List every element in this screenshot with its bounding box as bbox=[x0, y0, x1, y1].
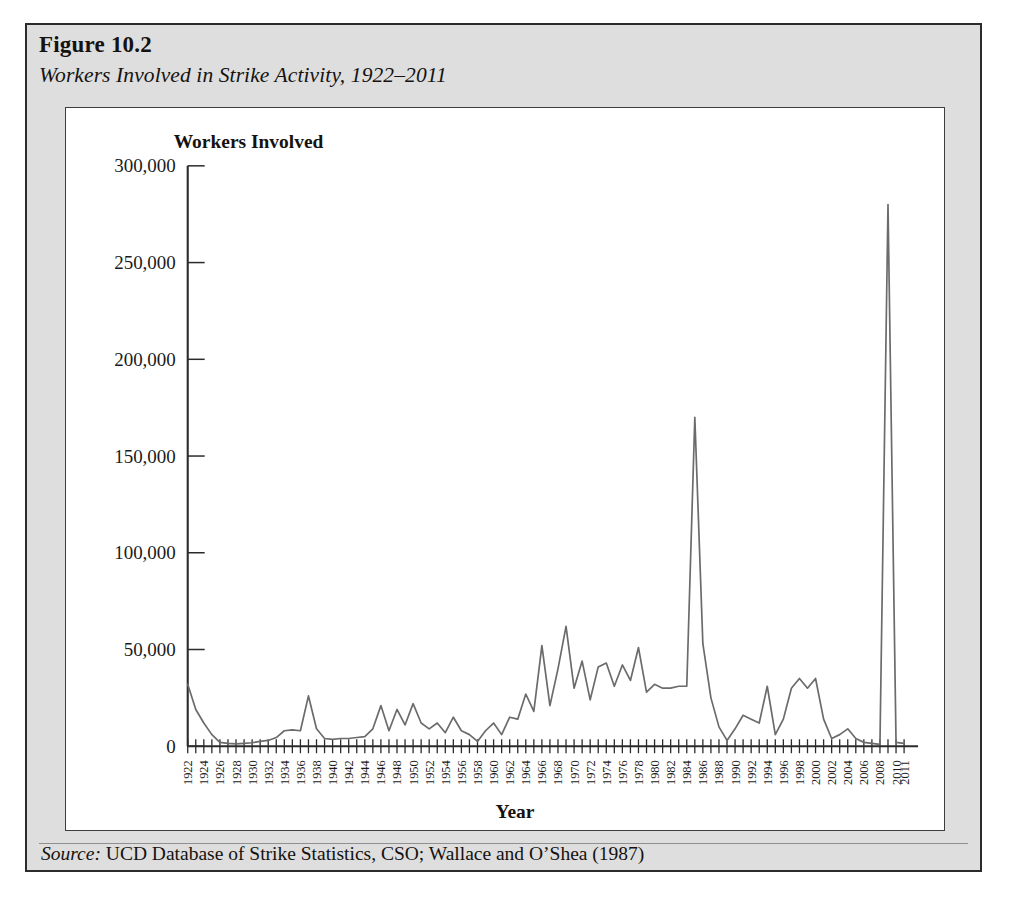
x-tick-label: 1934 bbox=[278, 759, 292, 785]
x-tick-label: 1962 bbox=[503, 760, 517, 785]
x-tick-label: 2000 bbox=[809, 760, 823, 785]
x-tick-label: 1986 bbox=[696, 760, 710, 785]
figure-number: Figure 10.2 bbox=[39, 31, 968, 60]
x-tick-label: 1932 bbox=[262, 760, 276, 785]
x-tick-label: 1990 bbox=[729, 760, 743, 785]
x-axis-tick-labels: 1922192419261928193019321934193619381940… bbox=[181, 759, 911, 785]
x-tick-label: 1948 bbox=[390, 760, 404, 785]
y-tick-label: 200,000 bbox=[114, 349, 176, 370]
x-tick-label: 1950 bbox=[407, 760, 421, 785]
y-tick-label: 150,000 bbox=[114, 446, 176, 467]
x-tick-label: 1992 bbox=[745, 760, 759, 785]
x-tick-label: 1982 bbox=[664, 760, 678, 785]
figure-subtitle: Workers Involved in Strike Activity, 192… bbox=[39, 62, 968, 90]
x-tick-label: 1928 bbox=[230, 760, 244, 785]
x-tick-label: 1924 bbox=[197, 759, 211, 785]
source-note: Source: UCD Database of Strike Statistic… bbox=[41, 843, 644, 865]
x-tick-label: 1952 bbox=[423, 760, 437, 785]
x-tick-label: 1936 bbox=[294, 760, 308, 785]
x-tick-label: 1978 bbox=[632, 760, 646, 785]
x-tick-label: 1998 bbox=[793, 760, 807, 785]
x-tick-label: 2002 bbox=[825, 760, 839, 785]
x-tick-label: 1970 bbox=[568, 760, 582, 785]
y-axis-title: Workers Involved bbox=[174, 131, 324, 152]
y-tick-label: 50,000 bbox=[124, 639, 176, 660]
data-series-line bbox=[188, 205, 904, 745]
y-tick-label: 300,000 bbox=[114, 155, 176, 176]
x-tick-label: 1922 bbox=[181, 760, 195, 785]
x-tick-label: 1966 bbox=[535, 760, 549, 785]
y-tick-label: 250,000 bbox=[114, 252, 176, 273]
x-tick-label: 1930 bbox=[246, 760, 260, 785]
figure-header: Figure 10.2 Workers Involved in Strike A… bbox=[39, 31, 968, 90]
x-tick-label: 1942 bbox=[342, 760, 356, 785]
x-tick-label: 1954 bbox=[439, 759, 453, 785]
x-tick-label: 1980 bbox=[648, 760, 662, 785]
source-label: Source: bbox=[41, 843, 101, 864]
x-tick-label: 2004 bbox=[841, 759, 855, 785]
x-tick-label: 2006 bbox=[857, 760, 871, 785]
x-tick-label: 1940 bbox=[326, 760, 340, 785]
x-tick-label: 2008 bbox=[873, 760, 887, 785]
x-axis-title: Year bbox=[496, 801, 535, 822]
x-tick-label: 1976 bbox=[616, 760, 630, 785]
x-tick-label: 1974 bbox=[600, 759, 614, 785]
x-tick-label: 1946 bbox=[374, 760, 388, 785]
strike-activity-line-chart: Workers Involved 050,000100,000150,00020… bbox=[66, 108, 944, 830]
source-text: UCD Database of Strike Statistics, CSO; … bbox=[106, 843, 645, 864]
x-tick-label: 1956 bbox=[455, 760, 469, 785]
x-tick-label: 1964 bbox=[519, 759, 533, 785]
x-tick-label: 1968 bbox=[551, 760, 565, 785]
figure-frame: Figure 10.2 Workers Involved in Strike A… bbox=[25, 23, 982, 872]
x-tick-label: 1958 bbox=[471, 760, 485, 785]
x-tick-label: 1996 bbox=[777, 760, 791, 785]
y-axis-ticks: 050,000100,000150,000200,000250,000300,0… bbox=[114, 155, 204, 756]
x-tick-label: 1984 bbox=[680, 759, 694, 785]
x-tick-label: 1972 bbox=[584, 760, 598, 785]
x-tick-label: 1960 bbox=[487, 760, 501, 785]
x-tick-label: 1944 bbox=[358, 759, 372, 785]
y-tick-label: 0 bbox=[166, 736, 175, 757]
y-tick-label: 100,000 bbox=[114, 542, 176, 563]
x-tick-label: 1988 bbox=[712, 760, 726, 785]
plot-panel: Workers Involved 050,000100,000150,00020… bbox=[65, 107, 945, 831]
x-tick-label: 2011 bbox=[898, 760, 912, 784]
x-tick-label: 1994 bbox=[761, 759, 775, 785]
x-tick-label: 1926 bbox=[213, 760, 227, 785]
x-tick-label: 1938 bbox=[310, 760, 324, 785]
